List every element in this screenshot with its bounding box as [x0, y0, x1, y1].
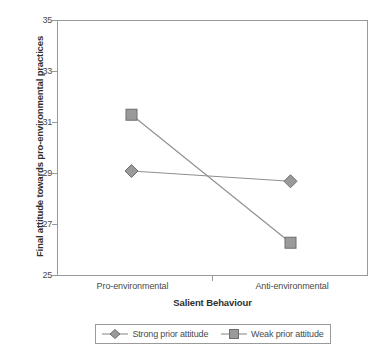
x-axis-title: Salient Behaviour	[57, 297, 368, 308]
y-tick-mark-35	[52, 20, 57, 21]
y-tick-label-29: 29	[16, 168, 52, 178]
chart-figure: Final attitude towards pro-environmental…	[0, 0, 385, 355]
y-tick-mark-27	[52, 224, 57, 225]
y-tick-label-33: 33	[16, 66, 52, 76]
y-tick-label-35: 35	[16, 15, 52, 25]
x-tick-label-anti-environmental: Anti-environmental	[232, 281, 352, 291]
square-marker-icon	[221, 328, 247, 340]
diamond-marker-icon	[102, 328, 128, 340]
y-axis-title: Final attitude towards pro-environmental…	[34, 12, 45, 282]
plot-area	[57, 20, 368, 276]
legend-label-weak-prior-attitude: Weak prior attitude	[251, 329, 324, 339]
y-tick-mark-25	[52, 275, 57, 276]
y-tick-mark-29	[52, 173, 57, 174]
x-tick-mark-center	[212, 276, 213, 281]
y-tick-label-31: 31	[16, 117, 52, 127]
y-tick-label-25: 25	[16, 270, 52, 280]
x-tick-label-pro-environmental: Pro-environmental	[75, 281, 190, 291]
legend-item-strong-prior-attitude: Strong prior attitude	[102, 328, 208, 340]
legend-label-strong-prior-attitude: Strong prior attitude	[132, 329, 208, 339]
chart-legend: Strong prior attitude Weak prior attitud…	[95, 324, 331, 344]
legend-item-weak-prior-attitude: Weak prior attitude	[221, 328, 324, 340]
y-tick-mark-31	[52, 122, 57, 123]
y-tick-label-27: 27	[16, 219, 52, 229]
y-tick-mark-33	[52, 71, 57, 72]
